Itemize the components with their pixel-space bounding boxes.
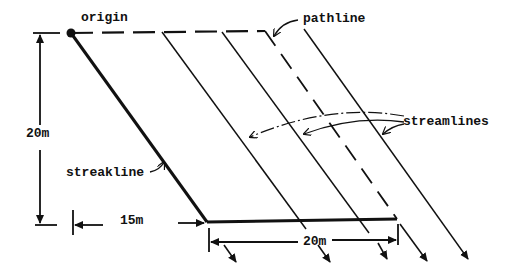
- streamlines-label: streamlines: [403, 115, 489, 128]
- pathline-label: pathline: [303, 12, 365, 25]
- pathline-leader: [274, 20, 298, 36]
- width-dimension-label: 20m: [303, 235, 326, 248]
- diagram-canvas: [0, 0, 513, 280]
- pathline-horizontal: [71, 31, 265, 33]
- streakline: [71, 33, 207, 222]
- offset-dimension-label: 15m: [120, 214, 143, 227]
- pathline-diagonal: [265, 31, 397, 219]
- origin-dot-icon: [67, 29, 76, 38]
- streamline-3: [304, 29, 468, 259]
- streamline-1: [162, 32, 306, 229]
- origin-label: origin: [81, 11, 128, 24]
- height-dimension-label: 20m: [26, 127, 49, 140]
- streamlines-leaders: [250, 112, 404, 137]
- bottom-line: [207, 219, 397, 222]
- streamline-2: [222, 32, 369, 233]
- streakline-label: streakline: [66, 166, 144, 179]
- streakline-leader: [150, 162, 164, 172]
- flow-lines-diagram: origin pathline streamlines streakline 2…: [0, 0, 513, 280]
